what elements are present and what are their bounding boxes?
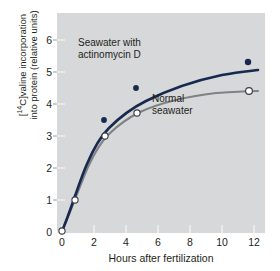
isotope-superscript: 14 [15, 106, 22, 114]
chart-figure: Seawater with actinomycin D Normal seawa… [0, 0, 280, 271]
x-tick-label-6: 6 [148, 236, 168, 248]
x-tick-label-0: 0 [52, 236, 72, 248]
y-axis-label: [14C]valine incorporation into protein (… [11, 0, 45, 145]
y-tick-label-2: 2 [38, 163, 52, 173]
annotation-normal-seawater: Normal seawater [152, 93, 193, 117]
annotation-normal-line1: Normal [152, 93, 193, 105]
y-axis-outer-ticks [53, 40, 57, 200]
y-axis-label-line1: [14C]valine incorporation [17, 14, 29, 116]
x-tick-label-12: 12 [244, 236, 264, 248]
y-axis-label-line1-rest: C]valine incorporation [17, 14, 28, 106]
y-axis-ticks [57, 40, 65, 232]
x-tick-label-8: 8 [180, 236, 200, 248]
x-axis-ticks [62, 225, 254, 233]
x-axis-tick-labels: 0 2 4 6 8 10 12 [0, 236, 280, 250]
annotation-actinomycin-line1: Seawater with [78, 37, 141, 49]
x-tick-label-10: 10 [212, 236, 232, 248]
annotation-normal-line2: seawater [152, 105, 193, 117]
annotation-actinomycin: Seawater with actinomycin D [78, 37, 141, 61]
x-tick-label-2: 2 [84, 236, 104, 248]
x-tick-label-4: 4 [116, 236, 136, 248]
y-tick-label-1: 1 [38, 195, 52, 205]
annotation-actinomycin-line2: actinomycin D [78, 49, 141, 61]
y-axis-label-line2: into protein (relative units) [28, 10, 40, 119]
x-axis-label: Hours after fertilization [57, 252, 265, 264]
